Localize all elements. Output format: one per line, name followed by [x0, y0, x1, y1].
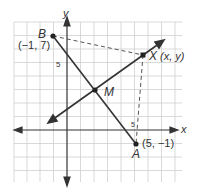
point-B-coords: (−1, 7): [18, 39, 50, 51]
point-X: [141, 53, 146, 58]
coordinate-diagram: x y 5 5 B (−1, 7) M X (x, y) (5, −1) A: [0, 0, 198, 192]
point-M-label: M: [104, 85, 114, 99]
line-up-arrow-icon: [155, 40, 164, 48]
x-axis-label: x: [180, 123, 187, 135]
y-tick-label: 5: [56, 60, 61, 69]
point-X-coords: (x, y): [160, 50, 185, 62]
x-axis-right-arrow-icon: [170, 127, 178, 133]
point-B: [50, 33, 55, 38]
point-A-coords: (5, −1): [142, 137, 174, 149]
x-axis-left-arrow-icon: [14, 127, 22, 133]
point-A: [133, 141, 138, 146]
point-A-label: A: [131, 147, 140, 161]
point-M: [92, 87, 97, 92]
y-axis-label: y: [62, 7, 70, 19]
y-axis-down-arrow-icon: [64, 177, 70, 186]
x-tick-label: 5: [131, 121, 135, 128]
point-X-label: X: [148, 49, 158, 63]
